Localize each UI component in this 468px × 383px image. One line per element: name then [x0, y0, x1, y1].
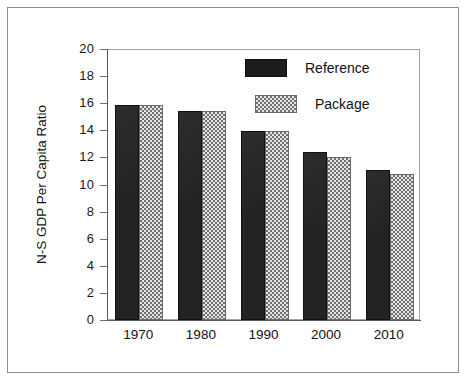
x-axis-tick-label: 1970: [107, 327, 170, 342]
legend-swatch-reference-icon: [245, 59, 287, 77]
y-axis-tick-label: 18: [62, 69, 94, 82]
y-axis-tick-label-wrap: 2: [62, 286, 94, 299]
x-axis-tick-label: 2000: [295, 327, 358, 342]
y-axis-tick-label: 4: [62, 259, 94, 272]
y-axis-tick-label: 6: [62, 232, 94, 245]
y-axis-tick: [100, 212, 107, 213]
bar-group: [178, 49, 226, 320]
y-axis-tick: [100, 157, 107, 158]
y-axis-tick-label: 12: [62, 150, 94, 163]
y-axis-tick-label-wrap: 6: [62, 232, 94, 245]
bar-1970-reference: [115, 105, 139, 320]
bar-2000-reference: [303, 152, 327, 320]
y-axis-tick-label-wrap: 12: [62, 150, 94, 163]
y-axis-tick-label: 20: [62, 42, 94, 55]
y-axis-tick-label-wrap: 14: [62, 123, 94, 136]
legend-label-package: Package: [315, 96, 369, 112]
y-axis-tick: [100, 185, 107, 186]
bar-1990-package: [265, 131, 289, 320]
y-axis-tick: [100, 293, 107, 294]
bar-group: [115, 49, 163, 320]
y-axis-tick-label-wrap: 10: [62, 178, 94, 191]
bar-1980-package: [202, 111, 226, 320]
y-axis-tick-label: 14: [62, 123, 94, 136]
legend-swatch-package-icon: [255, 95, 297, 113]
legend-item-reference: Reference: [245, 57, 370, 79]
y-axis-tick: [100, 266, 107, 267]
figure-root: 02468101214161820 N-S GDP Per Capita Rat…: [0, 0, 468, 383]
x-axis-tick-label: 2010: [357, 327, 420, 342]
y-axis-tick-label: 0: [62, 313, 94, 326]
x-axis-line: [107, 320, 421, 321]
chart-legend: Reference Package: [245, 57, 415, 119]
y-axis-tick: [100, 130, 107, 131]
y-axis-tick-label-wrap: 4: [62, 259, 94, 272]
y-axis-tick: [100, 320, 107, 321]
y-axis-tick-label: 10: [62, 178, 94, 191]
legend-item-package: Package: [255, 93, 369, 115]
bar-2000-package: [327, 157, 351, 320]
y-axis-tick: [100, 49, 107, 50]
x-axis-tick-label: 1980: [170, 327, 233, 342]
legend-label-reference: Reference: [305, 60, 370, 76]
y-axis-tick-label: 16: [62, 96, 94, 109]
y-axis-tick-label: 2: [62, 286, 94, 299]
bar-chart: 02468101214161820 N-S GDP Per Capita Rat…: [0, 0, 468, 383]
y-axis-tick: [100, 103, 107, 104]
y-axis-tick: [100, 239, 107, 240]
y-axis-tick-label-wrap: 16: [62, 96, 94, 109]
bar-1980-reference: [178, 111, 202, 320]
y-axis-tick: [100, 76, 107, 77]
y-axis-title: N-S GDP Per Capita Ratio: [34, 70, 49, 300]
bar-1990-reference: [241, 131, 265, 320]
bar-2010-package: [390, 174, 414, 320]
y-axis-tick-label-wrap: 20: [62, 42, 94, 55]
y-axis-tick-label-wrap: 0: [62, 313, 94, 326]
bar-2010-reference: [366, 170, 390, 320]
y-axis-tick-label-wrap: 8: [62, 205, 94, 218]
x-axis-tick-label: 1990: [232, 327, 295, 342]
y-axis-tick-label: 8: [62, 205, 94, 218]
bar-1970-package: [139, 105, 163, 320]
y-axis-tick-label-wrap: 18: [62, 69, 94, 82]
